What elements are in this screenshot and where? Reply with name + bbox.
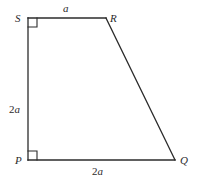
vertex-label-s: S: [15, 13, 21, 24]
trapezoid-outline-group: [28, 18, 175, 160]
side-length-label-top: a: [63, 3, 69, 14]
vertex-label-p: P: [15, 155, 22, 166]
edge-side-rq: [106, 18, 175, 160]
side-length-bottom-variable: a: [98, 165, 104, 177]
side-length-label-bottom: 2a: [92, 166, 103, 177]
right-angle-markers-group: [28, 18, 37, 160]
side-length-top-variable: a: [63, 2, 69, 14]
geometry-figure-canvas: S R P Q a 2a 2a: [0, 0, 202, 185]
vertex-label-r: R: [110, 13, 117, 24]
right-angle-marker-p: [28, 151, 37, 160]
side-length-left-variable: a: [15, 103, 21, 115]
right-angle-marker-s: [28, 18, 37, 27]
side-length-label-left: 2a: [9, 104, 20, 115]
vertex-label-q: Q: [180, 155, 188, 166]
trapezoid-diagram: [0, 0, 202, 185]
